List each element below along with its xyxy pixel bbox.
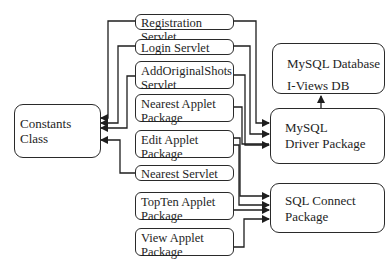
view-applet-package-box: View Applet Package — [135, 228, 234, 256]
topten-applet-label-line2: Package — [141, 209, 228, 223]
edit-applet-package-box: Edit Applet Package — [135, 130, 234, 158]
view-applet-label-line1: View Applet — [141, 231, 228, 245]
constants-class-label: Constants Class — [20, 116, 95, 146]
nearest-applet-label-line1: Nearest Applet — [141, 97, 228, 111]
mysql-database-box: MySQL Database I-Views DB — [272, 43, 385, 94]
edit-applet-label-line1: Edit Applet — [141, 133, 228, 147]
sql-connect-package-box: SQL Connect Package — [270, 183, 385, 233]
add-original-shots-label-line2: Servlet — [141, 78, 228, 92]
topten-applet-package-box: TopTen Applet Package — [135, 192, 234, 220]
nearest-applet-package-box: Nearest Applet Package — [135, 94, 234, 122]
add-original-shots-servlet-box: AddOriginalShots Servlet — [135, 61, 234, 89]
nearest-servlet-label: Nearest Servlet — [141, 167, 218, 181]
login-servlet-label: Login Servlet — [141, 41, 209, 55]
login-servlet-box: Login Servlet — [135, 39, 234, 55]
edit-applet-label-line2: Package — [141, 147, 228, 161]
constants-class-box: Constants Class — [14, 104, 101, 158]
mysql-driver-label-line2: Driver Package — [285, 136, 384, 152]
add-original-shots-label-line1: AddOriginalShots — [141, 64, 228, 78]
mysql-driver-label-line1: MySQL — [285, 120, 384, 136]
view-applet-label-line2: Package — [141, 245, 228, 259]
mysql-database-label: MySQL Database — [287, 53, 384, 75]
mysql-driver-package-box: MySQL Driver Package — [270, 108, 385, 164]
sql-connect-label-line1: SQL Connect — [285, 193, 384, 209]
nearest-applet-label-line2: Package — [141, 111, 228, 125]
topten-applet-label-line1: TopTen Applet — [141, 195, 228, 209]
sql-connect-label-line2: Package — [285, 209, 384, 225]
nearest-servlet-box: Nearest Servlet — [135, 165, 234, 181]
iviews-db-label: I-Views DB — [287, 75, 384, 97]
registration-servlet-box: Registration Servlet — [135, 14, 234, 30]
